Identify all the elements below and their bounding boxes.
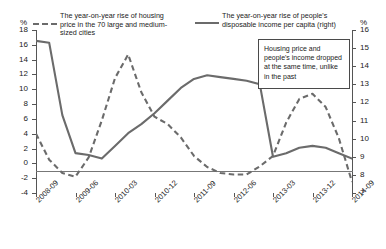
left-tick-label: 6 (12, 114, 28, 123)
right-tick-mark (352, 121, 356, 122)
left-tick-label: 0 (12, 158, 28, 167)
right-tick-label: 16 (360, 25, 376, 34)
right-tick-label: 15 (360, 43, 376, 52)
right-tick-mark (352, 30, 356, 31)
left-tick-label: 14 (12, 55, 28, 64)
chart-container: % % The year-on-year rise of housing pri… (0, 0, 386, 249)
left-tick-label: 18 (12, 25, 28, 34)
legend-swatch-dashed (33, 23, 57, 25)
right-tick-label: 8 (360, 170, 376, 179)
left-tick-label: 12 (12, 69, 28, 78)
right-tick-mark (352, 84, 356, 85)
right-tick-mark (352, 66, 356, 67)
left-tick-label: -4 (12, 188, 28, 197)
left-tick-label: 2 (12, 144, 28, 153)
legend-label-disposable-income: The year-on-year rise of people's dispos… (222, 12, 362, 29)
right-tick-mark (352, 102, 356, 103)
right-tick-label: 13 (360, 79, 376, 88)
left-tick-label: 4 (12, 129, 28, 138)
right-tick-mark (352, 48, 356, 49)
right-tick-mark (352, 139, 356, 140)
left-tick-label: 10 (12, 84, 28, 93)
right-tick-label: 10 (360, 134, 376, 143)
left-tick-label: -2 (12, 173, 28, 182)
right-tick-mark (352, 175, 356, 176)
left-tick-label: 16 (12, 40, 28, 49)
right-tick-mark (352, 157, 356, 158)
right-tick-label: 11 (360, 116, 376, 125)
right-tick-label: 12 (360, 97, 376, 106)
right-tick-label: 14 (360, 61, 376, 70)
left-tick-label: 8 (12, 99, 28, 108)
right-tick-label: 9 (360, 152, 376, 161)
legend-swatch-solid (195, 22, 219, 24)
right-axis-line (352, 30, 353, 193)
annotation-callout: Housing price and people's income droppe… (258, 39, 350, 89)
